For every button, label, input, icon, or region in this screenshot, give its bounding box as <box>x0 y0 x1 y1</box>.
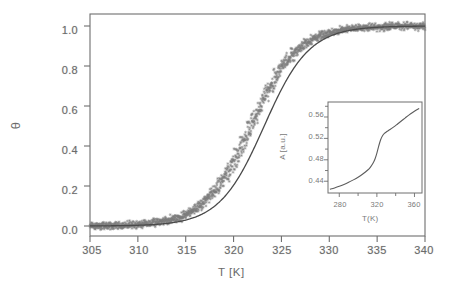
data-marker <box>272 90 275 93</box>
x-tick-label-2: 315 <box>173 244 201 256</box>
data-marker <box>222 180 225 183</box>
data-marker <box>310 43 313 46</box>
x-tick-label-3: 320 <box>220 244 248 256</box>
data-marker <box>296 53 299 56</box>
data-marker <box>375 30 378 33</box>
data-marker <box>230 168 233 171</box>
data-marker <box>226 162 229 165</box>
x-tick-label-1: 310 <box>125 244 153 256</box>
data-marker <box>258 113 261 116</box>
y-tick-label-0: 0.0 <box>38 224 78 236</box>
data-marker <box>267 99 270 102</box>
data-marker <box>293 59 296 62</box>
inset-x-tick-label-1: 320 <box>366 200 388 209</box>
data-marker <box>249 132 252 135</box>
data-marker <box>245 141 248 144</box>
data-marker <box>378 30 381 33</box>
data-marker <box>279 70 282 73</box>
data-marker <box>383 29 386 32</box>
data-marker <box>231 165 234 168</box>
data-marker <box>169 213 172 216</box>
data-marker <box>260 105 263 108</box>
x-tick-label-0: 305 <box>78 244 106 256</box>
data-marker <box>248 126 251 129</box>
data-marker <box>231 171 234 174</box>
data-marker <box>215 183 218 186</box>
x-tick-label-4: 325 <box>268 244 296 256</box>
data-marker <box>246 137 249 140</box>
data-marker <box>236 163 239 166</box>
data-marker <box>202 206 205 209</box>
inset-curve <box>330 108 419 189</box>
data-marker <box>249 130 252 133</box>
data-marker <box>256 119 259 122</box>
data-marker <box>285 51 288 54</box>
data-marker <box>289 59 292 62</box>
x-tick-label-6: 335 <box>363 244 391 256</box>
y-axis-title: θ <box>8 122 23 130</box>
figure-canvas: 0.0 0.2 0.4 0.6 0.8 1.0 305 310 315 320 … <box>0 0 452 300</box>
inset-y-tick-label-3: 0.56 <box>296 110 324 119</box>
data-marker <box>253 122 256 125</box>
inset-y-tick-label-2: 0.52 <box>296 132 324 141</box>
data-marker <box>250 117 253 120</box>
data-marker <box>213 195 216 198</box>
inset-x-axis-title: T(K) <box>362 214 378 223</box>
y-tick-label-2: 0.4 <box>38 144 78 156</box>
data-marker <box>229 173 232 176</box>
data-marker <box>285 54 288 57</box>
data-marker <box>263 92 266 95</box>
inset-y-axis-title: A [a.u.] <box>278 133 287 160</box>
data-marker <box>278 74 281 77</box>
data-marker <box>219 186 222 189</box>
data-marker <box>225 174 228 177</box>
fit-line <box>90 26 425 226</box>
y-tick-label-1: 0.2 <box>38 184 78 196</box>
data-marker <box>260 109 263 112</box>
data-marker <box>268 89 271 92</box>
data-marker <box>251 112 254 115</box>
inset-x-tick-label-0: 280 <box>329 200 351 209</box>
data-marker <box>406 21 409 24</box>
data-marker <box>233 168 236 171</box>
data-marker <box>242 150 245 153</box>
data-marker <box>197 208 200 211</box>
data-marker <box>259 101 262 104</box>
data-marker <box>273 67 276 70</box>
data-marker <box>228 180 231 183</box>
data-marker <box>423 28 426 31</box>
data-marker <box>274 84 277 87</box>
data-marker <box>262 101 265 104</box>
data-marker <box>264 97 267 100</box>
data-marker <box>244 147 247 150</box>
inset-y-tick-label-1: 0.48 <box>296 154 324 163</box>
y-tick-label-5: 1.0 <box>38 24 78 36</box>
data-marker <box>272 87 275 90</box>
x-tick-label-5: 330 <box>315 244 343 256</box>
data-marker <box>267 95 270 98</box>
y-tick-label-4: 0.8 <box>38 64 78 76</box>
x-tick-label-7: 340 <box>410 244 438 256</box>
y-tick-label-3: 0.6 <box>38 104 78 116</box>
data-marker <box>244 131 247 134</box>
data-marker <box>204 204 207 207</box>
x-axis-title: T [K] <box>218 266 245 278</box>
data-marker <box>218 190 221 193</box>
data-marker <box>222 184 225 187</box>
data-marker <box>208 201 211 204</box>
inset-x-tick-label-2: 360 <box>403 200 425 209</box>
data-marker <box>211 197 214 200</box>
data-marker <box>256 121 259 124</box>
data-marker <box>237 160 240 163</box>
inset-y-tick-label-0: 0.44 <box>296 176 324 185</box>
